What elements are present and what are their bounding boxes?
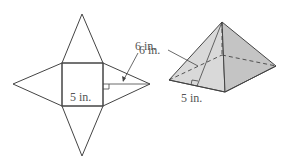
net-diagram	[13, 14, 150, 156]
pyramid-base-label: 5 in.	[181, 91, 202, 105]
net-right-angle-mark	[103, 84, 109, 89]
pyramid-3d	[168, 22, 276, 92]
net-slant-arrow	[123, 53, 138, 81]
net-triangle-bottom	[62, 106, 103, 156]
net-triangle-top	[62, 14, 103, 63]
net-triangle-right	[103, 63, 150, 106]
pyramid-figure: 5 in. 6 in. 6 in. 5 in.	[0, 0, 288, 165]
pyramid-slant-label: 6 in.	[139, 43, 160, 57]
net-base-label: 5 in.	[70, 90, 91, 104]
net-triangle-left	[13, 63, 62, 106]
